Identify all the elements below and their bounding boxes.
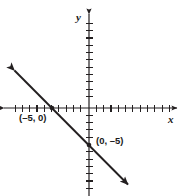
- y-axis-label: y: [76, 12, 81, 23]
- x-axis-label: x: [168, 114, 174, 125]
- point-marker-y-intercept: [87, 143, 92, 148]
- y-intercept-label: (0, –5): [96, 136, 123, 146]
- point-marker-x-intercept: [50, 106, 55, 111]
- plotted-line: [15, 71, 129, 185]
- y-axis: [86, 14, 93, 196]
- coordinate-plane-figure: y x (–5, 0) (0, –5): [0, 0, 184, 196]
- x-intercept-label: (–5, 0): [19, 113, 46, 123]
- line-segment: [15, 71, 129, 185]
- x-axis: [4, 105, 177, 112]
- graph-canvas: [0, 0, 184, 196]
